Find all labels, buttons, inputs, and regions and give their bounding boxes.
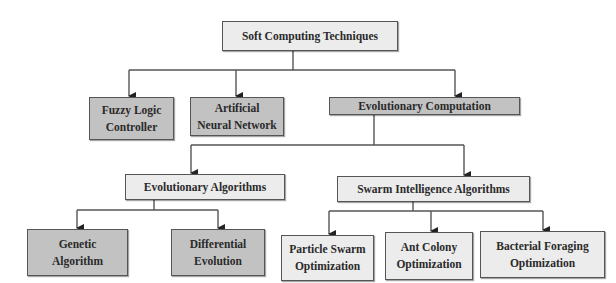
node-label: Swarm Intelligence Algorithms xyxy=(357,181,510,198)
node-bacterial-foraging-optimization: Bacterial Foraging Optimization xyxy=(480,231,605,278)
node-label: Evolutionary Computation xyxy=(358,98,491,115)
node-particle-swarm-optimization: Particle Swarm Optimization xyxy=(281,235,374,281)
node-fuzzy-logic-controller: Fuzzy Logic Controller xyxy=(89,97,174,140)
node-label: Differential Evolution xyxy=(190,236,247,269)
node-evolutionary-algorithms: Evolutionary Algorithms xyxy=(125,174,285,200)
node-label: Artificial Neural Network xyxy=(197,100,277,133)
node-label: Evolutionary Algorithms xyxy=(144,179,266,196)
node-label: Soft Computing Techniques xyxy=(242,28,378,45)
node-evolutionary-computation: Evolutionary Computation xyxy=(329,97,520,115)
node-ant-colony-optimization: Ant Colony Optimization xyxy=(385,232,473,280)
node-label: Bacterial Foraging Optimization xyxy=(496,238,588,271)
node-label: Fuzzy Logic Controller xyxy=(102,102,162,135)
node-soft-computing-techniques: Soft Computing Techniques xyxy=(222,21,398,51)
node-swarm-intelligence-algorithms: Swarm Intelligence Algorithms xyxy=(337,176,530,202)
node-label: Particle Swarm Optimization xyxy=(289,241,365,274)
node-differential-evolution: Differential Evolution xyxy=(171,229,265,276)
node-artificial-neural-network: Artificial Neural Network xyxy=(190,97,284,136)
node-label: Ant Colony Optimization xyxy=(396,239,461,272)
node-genetic-algorithm: Genetic Algorithm xyxy=(27,229,128,276)
node-label: Genetic Algorithm xyxy=(52,236,103,269)
